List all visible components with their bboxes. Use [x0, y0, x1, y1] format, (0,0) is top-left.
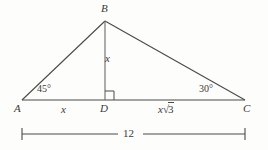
segment-label-bd: x: [105, 53, 110, 64]
vertex-label-c: C: [243, 103, 250, 114]
dimension-label-12: 12: [123, 128, 134, 139]
segment-label-dc: x√3: [158, 104, 174, 115]
geometry-figure: B A C D 45° 30° x x x√3 12: [0, 0, 268, 150]
right-angle-marker-d: [105, 91, 114, 100]
segment-label-dc-radicand: 3: [168, 102, 175, 115]
figure-canvas: [0, 0, 268, 150]
segment-label-ad: x: [61, 104, 66, 115]
triangle-side-bc: [105, 21, 245, 100]
vertex-label-d: D: [100, 103, 108, 114]
vertex-label-b: B: [101, 3, 108, 14]
vertex-label-a: A: [14, 103, 21, 114]
angle-label-c: 30°: [199, 84, 213, 94]
triangle-side-ab: [22, 21, 105, 100]
angle-label-a: 45°: [37, 84, 51, 94]
